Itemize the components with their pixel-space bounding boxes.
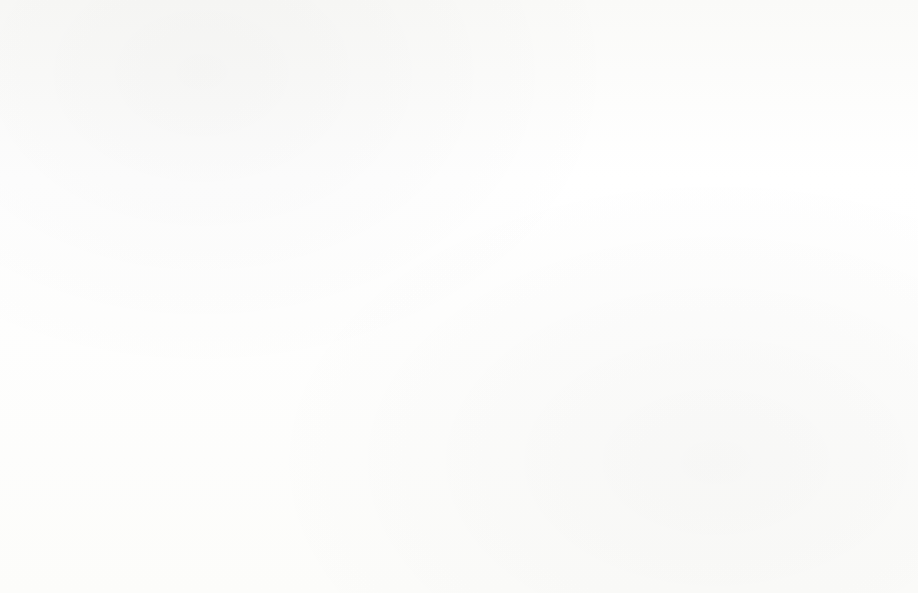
bar-business-11-00 — [347, 193, 361, 425]
x-label-cell: 8:00 — [198, 425, 244, 495]
y-axis-tick — [144, 317, 151, 318]
bar-business-18-00 — [672, 281, 686, 425]
scan-speck — [192, 290, 196, 293]
x-label-cell: 19:00 — [710, 425, 756, 495]
bar-business-13-00 — [440, 215, 454, 425]
legend-swatch-external — [540, 511, 552, 523]
y-axis-tick — [144, 102, 151, 103]
y-axis-tick-label: 14% — [104, 38, 139, 58]
bar-external-9-00 — [268, 183, 282, 425]
y-axis-tick — [144, 425, 151, 426]
y-axis-tick — [144, 48, 151, 49]
legend-label: Business travel percentage — [182, 507, 390, 527]
bar-group-19-00 — [709, 48, 755, 425]
legend-item-business[interactable]: Business travel percentage — [162, 507, 390, 527]
bar-group-12-00 — [384, 48, 430, 425]
bar-group-16-00 — [570, 48, 616, 425]
y-axis-tick-label: 12% — [104, 92, 139, 112]
x-label-cell: 7:00 — [152, 425, 198, 495]
bar-group-10-00 — [291, 48, 337, 425]
x-axis-labels: 7:008:009:0010:0011:0012:0013:0014:0015:… — [152, 425, 849, 495]
x-label-cell: 16:00 — [570, 425, 616, 495]
x-label-cell: 18:00 — [663, 425, 709, 495]
bar-business-19-00 — [718, 246, 732, 425]
bar-external-8-00 — [222, 359, 236, 425]
y-axis-tick — [144, 263, 151, 264]
x-label-cell: 15:00 — [524, 425, 570, 495]
y-axis-tick-label: 4% — [114, 307, 139, 327]
y-axis-tick — [144, 371, 151, 372]
y-axis-tick — [144, 210, 151, 211]
x-label-cell: 21:00 — [803, 425, 849, 495]
x-label-cell: 12:00 — [384, 425, 430, 495]
bar-external-16-00 — [593, 218, 607, 425]
chart-frame: Percentage 14%12%10%8%6%4%2%0% 7:008:009… — [45, 28, 878, 557]
bar-external-11-00 — [361, 87, 375, 425]
bar-business-8-00 — [208, 294, 222, 425]
bar-business-21-00 — [811, 298, 825, 425]
x-label-cell: 17:00 — [617, 425, 663, 495]
x-label-cell: 11:00 — [338, 425, 384, 495]
bar-group-14-00 — [477, 48, 523, 425]
bar-group-18-00 — [662, 48, 708, 425]
bar-group-7-00 — [152, 48, 198, 425]
chart-legend: Business travel percentageExternal trave… — [46, 507, 877, 527]
x-label-cell: 13:00 — [431, 425, 477, 495]
y-axis-tick-label: 2% — [114, 361, 139, 381]
x-label-cell: 14:00 — [477, 425, 523, 495]
bar-business-17-00 — [625, 307, 639, 425]
bar-external-12-00 — [407, 118, 421, 425]
bar-business-12-00 — [393, 177, 407, 425]
bar-group-21-00 — [802, 48, 848, 425]
legend-label: External travel percentage — [560, 507, 761, 527]
bar-external-14-00 — [500, 127, 514, 425]
bar-group-15-00 — [523, 48, 569, 425]
bar-group-20-00 — [755, 48, 801, 425]
bar-business-15-00 — [532, 261, 546, 425]
bar-external-13-00 — [454, 111, 468, 425]
plot-area: 14%12%10%8%6%4%2%0% — [151, 48, 848, 425]
bar-business-10-00 — [300, 202, 314, 426]
legend-swatch-business — [162, 511, 174, 523]
bar-group-13-00 — [430, 48, 476, 425]
bar-group-9-00 — [245, 48, 291, 425]
bar-business-9-00 — [254, 218, 268, 425]
bar-group-17-00 — [616, 48, 662, 425]
y-axis-tick-label: 8% — [114, 200, 139, 220]
bar-external-15-00 — [546, 142, 560, 425]
y-axis-title: Percentage — [65, 180, 83, 261]
y-axis-tick-label: 6% — [114, 253, 139, 273]
y-axis-tick-label: 10% — [104, 146, 139, 166]
bar-group-11-00 — [338, 48, 384, 425]
x-label-cell: 10:00 — [291, 425, 337, 495]
x-label-cell: 20:00 — [756, 425, 802, 495]
bar-group-8-00 — [198, 48, 244, 425]
bar-external-10-00 — [314, 98, 328, 425]
legend-item-external[interactable]: External travel percentage — [540, 507, 761, 527]
y-axis-tick — [144, 156, 151, 157]
x-label-cell: 9:00 — [245, 425, 291, 495]
bar-business-7-00 — [161, 323, 175, 425]
y-axis-tick-label: 0% — [114, 415, 139, 435]
bars-layer — [152, 48, 848, 425]
bar-business-16-00 — [579, 257, 593, 425]
bar-business-20-00 — [764, 222, 778, 425]
bar-business-14-00 — [486, 231, 500, 425]
